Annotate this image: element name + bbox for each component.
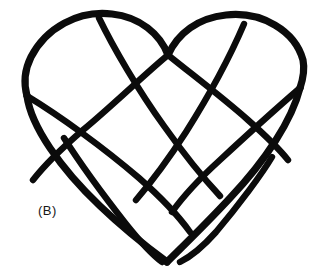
weave-strand-right-inner-band [180, 157, 272, 262]
figure-panel: (B) [0, 0, 325, 273]
weave-strand-cleft-to-right [168, 55, 288, 160]
heart-outline-right-side [167, 88, 300, 262]
weave-strand-cleft-to-left [33, 55, 168, 180]
woven-heart-drawing [0, 0, 325, 273]
figure-label: (B) [38, 203, 57, 219]
heart-outline-right-lobe [168, 14, 304, 88]
heart-outline-left-lobe [25, 13, 168, 96]
